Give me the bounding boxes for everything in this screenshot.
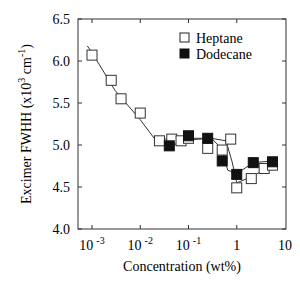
heptane-point (154, 136, 164, 146)
x-tick-label: 1 (233, 238, 240, 253)
y-tick-label: 4.5 (53, 180, 71, 195)
fit-curve (87, 46, 272, 183)
fit-curves (87, 46, 272, 183)
x-tick-label: 10 (278, 238, 292, 253)
dodecane-point (248, 158, 258, 168)
heptane-point (226, 134, 236, 144)
legend-label-heptane: Heptane (196, 31, 243, 46)
legend-marker-dodecane (180, 49, 189, 58)
x-axis-title: Concentration (wt%) (123, 259, 241, 275)
y-tick-label: 6.0 (53, 54, 71, 69)
x-tick-label: 10-2 (128, 235, 153, 253)
data-points (87, 50, 277, 193)
chart: 10-310-210-1110 4.04.55.05.56.06.5 Hepta… (0, 0, 300, 290)
heptane-point (87, 50, 97, 60)
x-tick-label: 10-1 (176, 235, 201, 253)
heptane-point (246, 174, 256, 184)
dodecane-point (164, 141, 174, 151)
y-tick-label: 6.5 (53, 12, 71, 27)
legend: Heptane Dodecane (180, 31, 252, 62)
y-tick-label: 4.0 (53, 222, 71, 237)
heptane-point (116, 94, 126, 104)
heptane-point (217, 145, 227, 155)
dodecane-point (217, 156, 227, 166)
y-tick-label: 5.5 (53, 96, 71, 111)
heptane-point (203, 143, 213, 153)
legend-marker-heptane (180, 33, 189, 42)
heptane-point (106, 75, 116, 85)
y-tick-label: 5.0 (53, 138, 71, 153)
heptane-point (232, 183, 242, 193)
dodecane-point (203, 133, 213, 143)
dodecane-point (267, 157, 277, 167)
heptane-point (135, 108, 145, 118)
dodecane-point (184, 131, 194, 141)
dodecane-point (232, 169, 242, 179)
y-axis-title: Excimer FWHH (x103 cm-1) (16, 44, 35, 204)
x-tick-label: 10-3 (79, 235, 104, 253)
legend-label-dodecane: Dodecane (196, 47, 252, 62)
